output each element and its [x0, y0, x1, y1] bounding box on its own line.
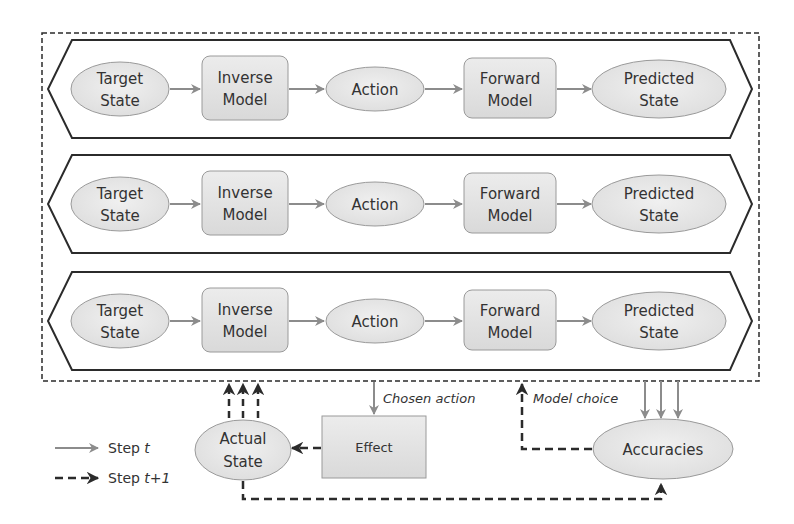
actual-state-node — [195, 420, 291, 480]
legend: Step t Step t+1 — [55, 440, 170, 486]
forward-model-label: Model — [487, 207, 532, 225]
legend-step-t1: Step t+1 — [108, 470, 170, 486]
action-label: Action — [352, 196, 399, 214]
target-state-label: State — [100, 324, 140, 342]
predicted-state-label: Predicted — [624, 185, 694, 203]
inverse-model-node — [202, 171, 288, 235]
actual-state-label: State — [223, 453, 263, 471]
predicted-state-label: State — [639, 207, 679, 225]
inverse-model-label: Model — [222, 91, 267, 109]
predicted-state-label: State — [639, 92, 679, 110]
target-state-label: Target — [96, 302, 144, 320]
target-state-label: State — [100, 92, 140, 110]
inverse-model-label: Inverse — [217, 184, 272, 202]
model-row-1: Target State Inverse Model Action Forwar… — [48, 40, 752, 138]
actual-to-accuracies-arrow — [243, 481, 661, 499]
chosen-action-label: Chosen action — [383, 391, 475, 406]
inverse-model-label: Model — [222, 323, 267, 341]
forward-model-label: Forward — [480, 70, 540, 88]
accuracies-label: Accuracies — [623, 441, 704, 459]
legend-step-t: Step t — [108, 440, 150, 456]
action-label: Action — [352, 81, 399, 99]
inverse-model-label: Inverse — [217, 69, 272, 87]
action-label: Action — [352, 313, 399, 331]
inverse-model-node — [202, 288, 288, 352]
forward-model-label: Forward — [480, 185, 540, 203]
predicted-state-label: Predicted — [624, 70, 694, 88]
target-state-label: Target — [96, 185, 144, 203]
predicted-state-label: Predicted — [624, 302, 694, 320]
actual-state-label: Actual — [220, 430, 267, 448]
inverse-model-label: Inverse — [217, 301, 272, 319]
model-row-2: Target State Inverse Model Action Forwar… — [48, 155, 752, 253]
forward-model-label: Model — [487, 92, 532, 110]
effect-label: Effect — [355, 440, 392, 455]
forward-model-label: Model — [487, 324, 532, 342]
model-row-3: Target State Inverse Model Action Forwar… — [48, 272, 752, 370]
model-diagram: Target State Inverse Model Action Forwar… — [0, 0, 794, 524]
target-state-label: Target — [96, 70, 144, 88]
inverse-model-node — [202, 56, 288, 120]
predicted-state-label: State — [639, 324, 679, 342]
model-choice-label: Model choice — [533, 391, 618, 406]
target-state-label: State — [100, 207, 140, 225]
forward-model-label: Forward — [480, 302, 540, 320]
inverse-model-label: Model — [222, 206, 267, 224]
